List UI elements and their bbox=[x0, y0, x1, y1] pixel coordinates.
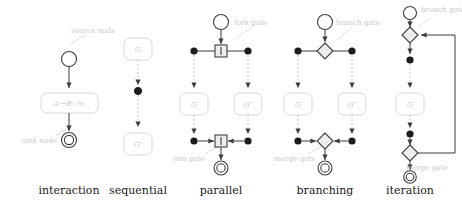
iteration-branch-leader-line bbox=[418, 18, 430, 27]
parallel-source-node bbox=[214, 15, 229, 30]
panel-branching bbox=[284, 15, 366, 176]
sequential-G-label: G bbox=[135, 45, 142, 54]
merge-left-dot bbox=[294, 137, 301, 144]
sequential-dot bbox=[134, 87, 141, 94]
join-right-dot bbox=[244, 137, 251, 144]
sequential-Gprime-label: G' bbox=[134, 140, 143, 149]
branch-right-dot bbox=[348, 47, 355, 54]
parallel-sink-inner bbox=[217, 164, 225, 172]
annotation-branch-gate: branch gate bbox=[336, 18, 380, 27]
panel-sequential bbox=[124, 38, 152, 155]
iteration-branch-gate-diamond bbox=[402, 27, 418, 43]
parallel-Gprime-label: G' bbox=[244, 100, 253, 109]
loop-back-edge bbox=[418, 35, 455, 153]
iteration-loop-dot-top bbox=[406, 56, 413, 63]
fork-right-dot bbox=[244, 47, 251, 54]
source-node-leader-line bbox=[70, 35, 86, 44]
merge-right-dot bbox=[348, 137, 355, 144]
iteration-sink-inner bbox=[406, 173, 414, 181]
branching-G-label: G bbox=[295, 100, 302, 109]
parallel-G-label: G bbox=[191, 100, 198, 109]
source-node-circle bbox=[62, 52, 77, 67]
annotation-sink-node: sink node bbox=[22, 136, 57, 145]
caption-parallel: parallel bbox=[168, 184, 274, 197]
branching-source-node bbox=[318, 15, 333, 30]
notation-figure: source node sink node A→B: m G G' fork g… bbox=[0, 0, 462, 203]
diagram-canvas: source node sink node A→B: m G G' fork g… bbox=[0, 0, 462, 203]
interaction-message-label: A→B: m bbox=[52, 99, 85, 108]
fork-gate-leader-line bbox=[233, 26, 253, 40]
annotation-fork-gate: fork gate bbox=[234, 18, 267, 27]
annotation-iteration-merge-gate: merge gate bbox=[406, 163, 448, 172]
sink-node-inner-circle bbox=[64, 135, 73, 144]
panel-interaction bbox=[41, 35, 98, 148]
join-left-dot bbox=[190, 137, 197, 144]
fork-left-dot bbox=[190, 47, 197, 54]
annotation-merge-gate: merge gate bbox=[274, 154, 316, 163]
branching-Gprime-label: G' bbox=[348, 100, 357, 109]
branching-sink-inner bbox=[321, 164, 329, 172]
iteration-merge-gate-diamond bbox=[402, 145, 418, 161]
branch-gate-diamond bbox=[317, 43, 333, 59]
iteration-loop-dot-bottom bbox=[406, 130, 413, 137]
caption-iteration: iteration bbox=[356, 184, 462, 197]
annotation-join-gate: join gate bbox=[172, 154, 205, 163]
branch-left-dot bbox=[294, 47, 301, 54]
iteration-G-label: G bbox=[407, 100, 414, 109]
annotation-source-node: source node bbox=[71, 26, 115, 35]
iteration-source-node bbox=[404, 7, 417, 20]
branch-gate-leader-line bbox=[337, 26, 353, 40]
annotation-iteration-branch-gate: branch gate bbox=[421, 5, 462, 14]
panel-iteration bbox=[396, 7, 455, 184]
panel-parallel bbox=[180, 15, 262, 176]
merge-gate-diamond bbox=[317, 133, 333, 149]
